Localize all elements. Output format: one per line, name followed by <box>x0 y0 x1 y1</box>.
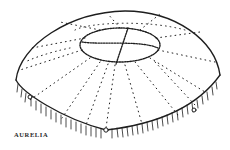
bell-rim <box>16 75 220 130</box>
sense-organ <box>28 95 32 99</box>
figure-caption: AURELIA <box>14 131 48 138</box>
sense-organ <box>192 108 196 112</box>
sense-organ <box>104 128 108 132</box>
aurelia-illustration <box>0 0 230 150</box>
